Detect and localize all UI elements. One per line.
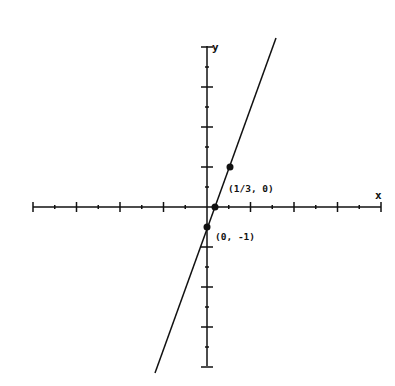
- point-x-intercept: [212, 204, 219, 211]
- point-label-x-intercept: (1/3, 0): [228, 183, 274, 194]
- coordinate-plane: x y (1/3, 0) (0, -1): [0, 0, 395, 386]
- point-y-intercept: [204, 224, 211, 231]
- x-axis-label: x: [375, 189, 382, 202]
- y-axis-label: y: [212, 41, 219, 54]
- point-one-two: [227, 164, 234, 171]
- point-label-y-intercept: (0, -1): [215, 231, 255, 242]
